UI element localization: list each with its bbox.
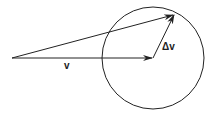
delta-v-label: Δv — [162, 41, 175, 52]
vector-diagram-svg — [0, 0, 214, 114]
v-label: v — [64, 60, 70, 71]
resultant-vector — [12, 15, 173, 58]
velocity-diagram: v Δv — [0, 0, 214, 114]
